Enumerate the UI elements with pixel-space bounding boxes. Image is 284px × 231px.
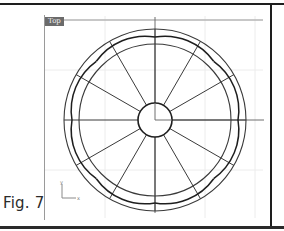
bottom-rule [0,226,284,229]
viewport-title-label[interactable]: Top [45,17,64,26]
figure-page: y x Top Fig. 7 [0,0,284,231]
axis-icon-x-label: x [77,195,80,201]
axis-icon [62,184,76,198]
figure-caption: Fig. 7 [3,194,45,212]
axis-icon-y-label: y [60,179,63,186]
